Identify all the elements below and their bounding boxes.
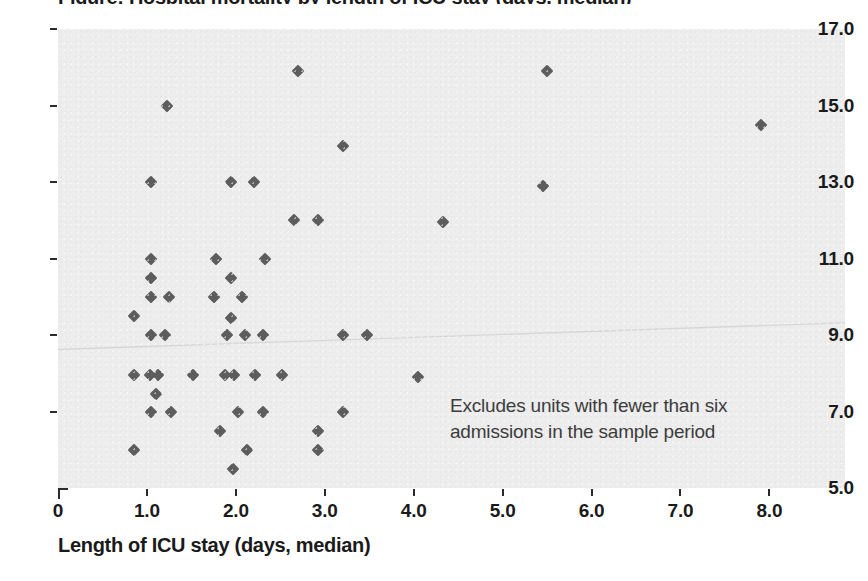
x-axis-tick-label: 0 bbox=[53, 500, 63, 522]
x-axis-tick-label: 6.0 bbox=[579, 500, 605, 522]
x-axis-title: Length of ICU stay (days, median) bbox=[58, 534, 370, 557]
x-axis-tick-mark bbox=[146, 489, 148, 496]
chart-title: Figure: Hospital mortality by length of … bbox=[58, 0, 631, 4]
y-axis-tick-mark bbox=[50, 411, 57, 413]
y-axis-tick-mark bbox=[50, 334, 57, 336]
x-axis-tick-label: 7.0 bbox=[668, 500, 694, 522]
y-axis-tick-label: 11.0 bbox=[819, 248, 854, 270]
x-axis-tick-label: 5.0 bbox=[490, 500, 516, 522]
x-axis-tick-mark bbox=[235, 489, 237, 496]
scatter-chart-figure: Figure: Hospital mortality by length of … bbox=[0, 0, 868, 581]
x-axis-tick-mark bbox=[413, 489, 415, 496]
x-axis-tick-mark bbox=[502, 489, 504, 496]
x-axis-tick-label: 2.0 bbox=[223, 500, 249, 522]
y-axis-tick-mark bbox=[50, 181, 57, 183]
y-axis-tick-mark bbox=[50, 258, 57, 260]
y-axis-tick-label: 17.0 bbox=[818, 18, 854, 40]
y-axis-tick-mark bbox=[50, 28, 57, 30]
x-axis-tick-mark bbox=[591, 489, 593, 496]
y-axis-tick-label: 9.0 bbox=[828, 324, 854, 346]
x-axis-tick-label: 4.0 bbox=[401, 500, 427, 522]
x-axis-tick-mark bbox=[324, 489, 326, 496]
x-axis-tick-label: 3.0 bbox=[312, 500, 338, 522]
y-axis-tick-label: 15.0 bbox=[818, 95, 854, 117]
axis-origin-corner-tick bbox=[58, 488, 68, 499]
y-axis-tick-label: 13.0 bbox=[818, 171, 854, 193]
x-axis-tick-label: 8.0 bbox=[756, 500, 782, 522]
y-axis-tick-label: 5.0 bbox=[828, 477, 854, 499]
chart-annotation: Excludes units with fewer than six admis… bbox=[450, 393, 780, 445]
x-axis-tick-label: 1.0 bbox=[134, 500, 160, 522]
annotation-line-2: admissions in the sample period bbox=[450, 419, 780, 445]
trend-line-segment bbox=[58, 323, 845, 350]
x-axis-tick-mark bbox=[768, 489, 770, 496]
x-axis-tick-mark bbox=[679, 489, 681, 496]
y-axis-tick-mark bbox=[50, 105, 57, 107]
annotation-line-1: Excludes units with fewer than six bbox=[450, 393, 780, 419]
y-axis-tick-label: 7.0 bbox=[828, 401, 854, 423]
